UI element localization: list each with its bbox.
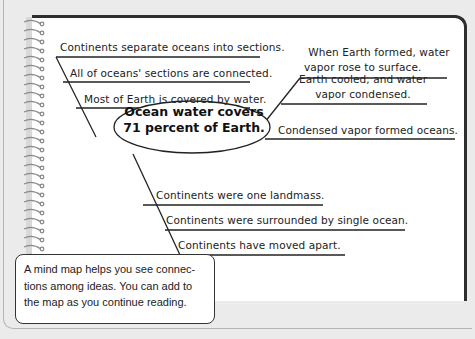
branch-earth-cooled: Earth cooled, and water vapor condensed. [298, 72, 428, 102]
branch-earth-formed-vapor-line1: When Earth formed, water [304, 45, 454, 60]
branch-continents-separate-oceans: Continents separate oceans into sections… [60, 41, 285, 53]
branch-oceans-sections-connected: All of oceans' sections are connected. [70, 67, 272, 79]
caption-box: A mind map helps you see connec-tions am… [15, 254, 215, 324]
branch-earth-formed-vapor: When Earth formed, water vapor rose to s… [304, 45, 454, 75]
spiral-binding-icon [24, 20, 44, 259]
central-node-text: Ocean water covers 71 percent of Earth. [116, 104, 272, 136]
central-node-line1: Ocean water covers [116, 104, 272, 120]
branch-earth-cooled-line1: Earth cooled, and water [298, 72, 428, 87]
branch-earth-cooled-line2: vapor condensed. [298, 87, 428, 102]
branch-continents-single-ocean: Continents were surrounded by single oce… [166, 214, 408, 226]
branch-continents-moved-apart: Continents have moved apart. [178, 239, 341, 251]
branch-continents-one-landmass: Continents were one landmass. [156, 189, 324, 201]
central-node-line2: 71 percent of Earth. [116, 120, 272, 136]
branch-condensed-vapor-oceans: Condensed vapor formed oceans. [278, 124, 458, 136]
